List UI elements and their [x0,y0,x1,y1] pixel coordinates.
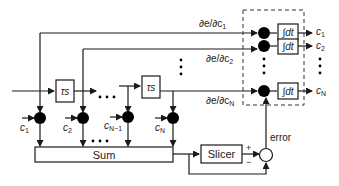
svg-text:∫dt: ∫dt [281,86,294,97]
svg-text:Sum: Sum [93,149,116,161]
coef-label-cN: cN [155,122,165,134]
output-label-c2: c2 [316,40,325,52]
multiplier-N [167,112,179,124]
multiplier-Nm1 [122,111,134,123]
delay-block-2: τs [142,76,160,98]
gradient-label-2: ∂e/∂c2 [206,53,233,65]
svg-text:τs: τs [61,86,70,97]
error-summing-node [260,149,273,162]
integrator-N: ∫dt [278,83,298,99]
coef-label-c1: c1 [20,122,29,134]
svg-text:Slicer: Slicer [208,148,236,160]
equalizer-diagram: τs τs ∫dt ∫dt ∫dt Sum [0,0,339,186]
coef-label-cNm1: cN−1 [104,120,122,132]
update-multiplier-N [258,85,270,97]
update-multiplier-2 [258,40,270,52]
sum-block: Sum [35,147,173,162]
minus-sign: − [246,157,251,167]
slicer-block: Slicer [201,145,242,163]
multiplier-2 [77,112,89,124]
svg-text:∫dt: ∫dt [281,27,294,38]
coef-label-c2: c2 [63,122,72,134]
output-label-c1: c1 [316,26,325,38]
update-multiplier-1 [258,27,270,39]
gradient-label-N: ∂e/∂cN [206,95,234,107]
svg-text:∫dt: ∫dt [281,41,294,52]
plus-sign: + [246,143,251,153]
multiplier-1 [34,112,46,124]
delay-block-1: τs [56,80,74,102]
output-label-cN: cN [316,85,326,97]
gradient-label-1: ∂e/∂c1 [199,18,226,30]
svg-text:τs: τs [147,82,156,93]
integrator-2: ∫dt [278,39,298,54]
integrator-1: ∫dt [278,24,298,40]
error-label: error [270,132,292,143]
